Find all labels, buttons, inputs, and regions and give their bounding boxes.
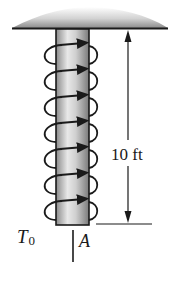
torque-symbol: T (17, 226, 28, 247)
torque-subscript: 0 (29, 233, 36, 248)
torsion-diagram: 10 ft T0 A (0, 0, 174, 286)
arrow-down-icon (125, 211, 132, 223)
fixed-support-plate (12, 7, 168, 29)
torque-label: T0 (17, 227, 35, 247)
dimension-line (96, 30, 152, 224)
shaft (56, 29, 89, 225)
point-label: A (79, 232, 90, 250)
dimension-label: 10 ft (111, 146, 143, 163)
arrow-up-icon (125, 30, 132, 42)
